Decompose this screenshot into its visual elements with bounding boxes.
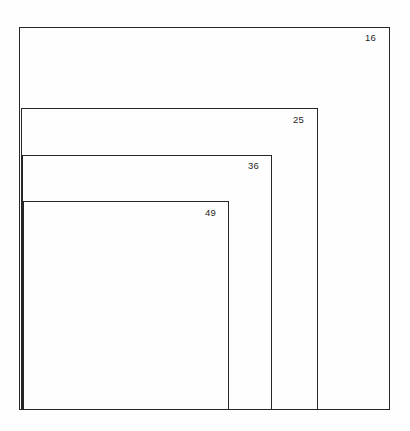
rectangle-49-label: 49 [205,208,216,218]
rectangle-49 [23,201,229,410]
diagram-canvas: 16 25 36 49 [0,0,410,431]
rectangle-16-label: 16 [365,33,376,43]
rectangle-25-label: 25 [293,115,304,125]
rectangle-36-label: 36 [248,161,259,171]
